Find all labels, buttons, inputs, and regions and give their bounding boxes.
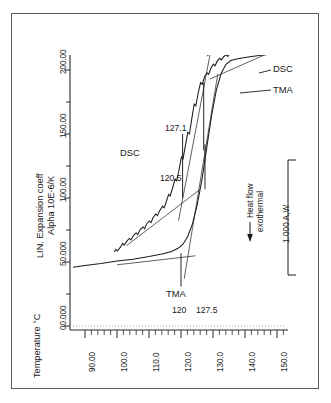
legend-heat-flow-label: Heat flow bbox=[246, 183, 254, 218]
tma-curve-label: TMA bbox=[273, 85, 293, 94]
annotation-dsc-onset: 120.5 bbox=[160, 174, 182, 183]
dsc-curve bbox=[114, 37, 268, 252]
legend-exothermal-label: exothermal bbox=[256, 191, 264, 232]
tma-leader bbox=[240, 90, 271, 93]
dsc-curve-label: DSC bbox=[273, 64, 293, 73]
y-tick-label-2: 100.00 bbox=[60, 178, 68, 202]
figure-container: 00.000 50.000 100.00 150.00 200.00 90.00… bbox=[0, 0, 331, 403]
y-tick-label-1: 50.000 bbox=[60, 242, 68, 266]
x-axis-ticks bbox=[85, 330, 283, 338]
annotation-tma-onset: 120 bbox=[172, 306, 186, 315]
x-tick-label-6: 150.0 bbox=[281, 352, 289, 372]
legend-scale-label: 1.000 A,W bbox=[282, 205, 290, 243]
y-tick-label-3: 150.00 bbox=[60, 114, 68, 138]
y-axis-title-line2: Alpha 10E-6/K bbox=[47, 176, 56, 235]
y-axis-title-line1: LIN. Expansion coeff bbox=[36, 173, 45, 258]
annotation-tma-end: 127.5 bbox=[196, 306, 218, 315]
dsc-leader bbox=[259, 70, 271, 73]
y-tick-label-0: 00.000 bbox=[60, 306, 68, 330]
tma-inflection-tangent bbox=[184, 74, 218, 279]
tma-upper-tangent bbox=[210, 54, 268, 80]
tma-curve bbox=[73, 54, 271, 267]
x-tick-label-2: 110.0 bbox=[153, 353, 161, 372]
annotation-dsc-end: 127.1 bbox=[165, 124, 187, 133]
tma-inner-label: TMA bbox=[166, 289, 186, 298]
dsc-upper-tangent bbox=[207, 18, 265, 56]
y-tick-label-4: 200.00 bbox=[60, 50, 68, 74]
x-axis-title: Temperature °C bbox=[33, 314, 42, 378]
dsc-inner-label: DSC bbox=[120, 148, 140, 157]
curve-label-leaders bbox=[240, 70, 271, 93]
x-tick-label-5: 140.0 bbox=[249, 352, 257, 372]
exothermal-arrow-icon bbox=[247, 222, 253, 242]
x-tick-label-1: 100.0 bbox=[121, 352, 129, 372]
x-tick-label-0: 90.00 bbox=[89, 352, 97, 372]
tma-baseline-tangent bbox=[117, 256, 195, 265]
dsc-baseline-tangent bbox=[127, 189, 201, 245]
x-tick-label-4: 130.0 bbox=[217, 352, 225, 372]
x-tick-label-3: 120.0 bbox=[185, 352, 193, 372]
